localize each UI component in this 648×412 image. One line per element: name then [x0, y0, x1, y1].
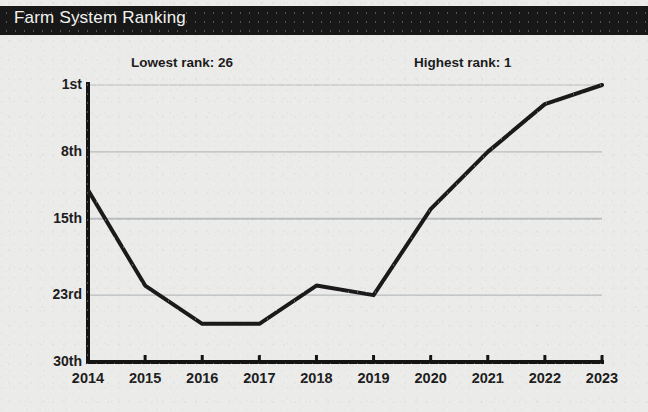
annotation-highest-rank: Highest rank: 1	[414, 55, 512, 70]
y-axis-tick-label: 15th	[0, 210, 82, 226]
axis-lines	[88, 84, 602, 362]
x-axis-tick-label: 2021	[458, 370, 518, 386]
x-axis-tick-label: 2016	[172, 370, 232, 386]
data-series-line	[88, 85, 602, 324]
annotation-lowest-rank: Lowest rank: 26	[131, 55, 233, 70]
y-axis-tick-label: 23rd	[0, 286, 82, 302]
chart-figure: Farm System Ranking Lowest rank: 26 High…	[0, 0, 648, 412]
x-axis-tick-label: 2015	[115, 370, 175, 386]
x-axis-tick-label: 2020	[401, 370, 461, 386]
y-axis-tick-label: 8th	[0, 143, 82, 159]
x-axis-tick-label: 2014	[58, 370, 118, 386]
y-axis-tick-label: 1st	[0, 76, 82, 92]
gridlines	[88, 85, 602, 362]
x-axis-tick-label: 2019	[344, 370, 404, 386]
chart-title: Farm System Ranking	[14, 9, 186, 26]
x-axis-tick-label: 2017	[229, 370, 289, 386]
y-axis-tick-label: 30th	[0, 353, 82, 369]
chart-plot-area	[0, 0, 648, 412]
x-axis-tick-label: 2022	[515, 370, 575, 386]
x-axis-tick-label: 2018	[286, 370, 346, 386]
x-axis-tick-label: 2023	[572, 370, 632, 386]
